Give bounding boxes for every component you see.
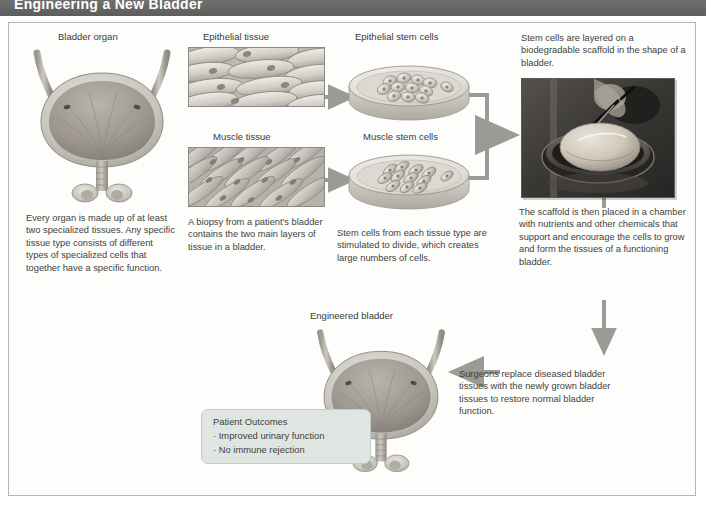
patient-outcome-item-1: · Improved urinary function — [213, 430, 325, 441]
label-engineered-bladder: Engineered bladder — [310, 310, 393, 321]
bladder-organ-icon — [27, 43, 177, 203]
caption-stem-cells: Stem cells from each tissue type are sti… — [337, 227, 487, 264]
page-title: Engineering a New Bladder — [14, 0, 203, 12]
caption-scaffold-top: Stem cells are layered on a biodegradabl… — [521, 32, 686, 69]
patient-outcomes-box: Patient Outcomes · Improved urinary func… — [201, 409, 371, 464]
muscle-tissue-micrograph-icon — [188, 147, 325, 207]
caption-surgeons: Surgeons replace diseased bladder tissue… — [459, 368, 624, 418]
label-bladder-organ: Bladder organ — [58, 31, 118, 42]
label-muscle-tissue: Muscle tissue — [213, 131, 271, 142]
muscle-petri-dish-icon — [344, 145, 474, 215]
caption-chamber: The scaffold is then placed in a chamber… — [519, 206, 689, 268]
patient-outcomes-title: Patient Outcomes — [213, 416, 288, 427]
epithelial-tissue-micrograph-icon — [188, 47, 325, 107]
header-bar: Engineering a New Bladder — [0, 0, 706, 16]
label-epithelial-stem-cells: Epithelial stem cells — [355, 31, 438, 42]
caption-biopsy: A biopsy from a patient's bladder contai… — [188, 216, 328, 253]
label-muscle-stem-cells: Muscle stem cells — [363, 131, 438, 142]
label-epithelial-tissue: Epithelial tissue — [203, 31, 269, 42]
patient-outcome-item-2: · No immune rejection — [213, 444, 305, 455]
epithelial-petri-dish-icon — [344, 56, 474, 126]
scaffold-photograph-icon — [521, 78, 675, 198]
caption-organ: Every organ is made up of at least two s… — [26, 212, 176, 274]
